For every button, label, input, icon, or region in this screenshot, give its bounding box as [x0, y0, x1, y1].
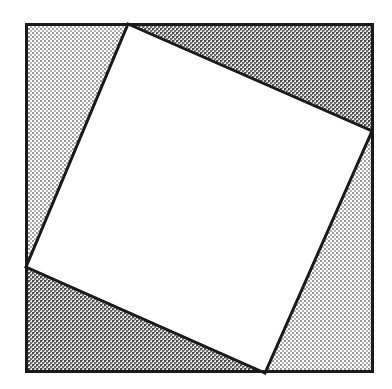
- vertex-top: [126, 22, 130, 26]
- vertex-left: [24, 265, 28, 269]
- vertex-bottom: [263, 371, 267, 375]
- inscribed-square-diagram: [0, 0, 392, 389]
- vertex-right: [370, 129, 374, 133]
- figure-canvas: Square inscribed in a square A rotated s…: [0, 0, 392, 389]
